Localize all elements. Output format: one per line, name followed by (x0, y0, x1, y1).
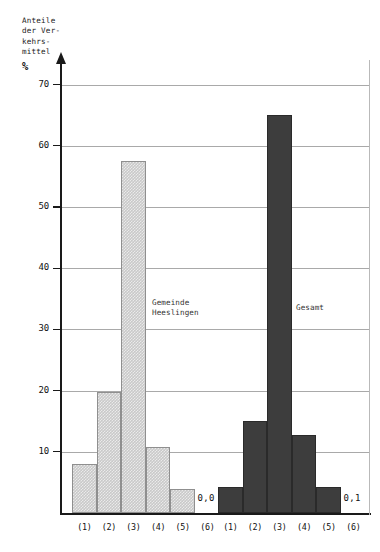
y-tick-10 (53, 451, 62, 452)
gridline-60 (62, 146, 369, 147)
y-tick-label-60: 60 (39, 140, 49, 150)
x-tick-label-group1-4: (4) (146, 522, 171, 532)
x-tick-label-group2-1: (1) (218, 522, 243, 532)
x-tick-label-group1-5: (5) (170, 522, 195, 532)
bar-series2-cat3 (267, 115, 292, 513)
plot-frame-right-edge (369, 60, 370, 515)
y-tick-label-20: 20 (39, 385, 49, 395)
gridline-50 (62, 207, 369, 208)
x-tick-label-group2-2: (2) (243, 522, 268, 532)
bar-series2-cat5 (316, 487, 341, 513)
x-tick-label-group2-3: (3) (267, 522, 292, 532)
y-tick-label-30: 30 (39, 323, 49, 333)
y-tick-30 (53, 329, 62, 330)
x-tick-label-group1-3: (3) (121, 522, 146, 532)
y-tick-label-50: 50 (39, 201, 49, 211)
bar-series1-cat5 (170, 489, 195, 513)
y-axis-unit-label: % (22, 60, 28, 72)
value-annotation-series2-cat6: 0,1 (344, 493, 361, 503)
bar-series2-cat2 (243, 421, 268, 513)
x-tick-label-group1-1: (1) (72, 522, 97, 532)
y-axis-caption: Anteile der Ver- kehrs- mittel (22, 16, 60, 58)
value-annotation-series1-cat6: 0,0 (198, 493, 215, 503)
series-label-gemeinde-heeslingen: Gemeinde Heeslingen (152, 298, 199, 318)
bar-chart: Anteile der Ver- kehrs- mittel % 1020304… (0, 0, 380, 552)
x-tick-label-group2-5: (5) (316, 522, 341, 532)
bar-series1-cat1 (72, 464, 97, 513)
bar-series2-cat4 (292, 435, 317, 513)
y-tick-label-40: 40 (39, 262, 49, 272)
gridline-40 (62, 268, 369, 269)
bar-series1-cat4 (146, 447, 171, 513)
bar-series1-cat3 (121, 161, 146, 513)
y-tick-20 (53, 390, 62, 391)
bar-series1-cat2 (97, 392, 122, 513)
y-axis-line (60, 60, 62, 515)
y-tick-label-70: 70 (39, 79, 49, 89)
y-tick-70 (53, 84, 62, 85)
x-tick-label-group1-6: (6) (195, 522, 220, 532)
x-tick-label-group2-4: (4) (292, 522, 317, 532)
x-tick-label-group2-6: (6) (341, 522, 366, 532)
gridline-70 (62, 85, 369, 86)
y-tick-label-10: 10 (39, 446, 49, 456)
bar-series2-cat1 (218, 487, 243, 513)
y-tick-40 (53, 268, 62, 269)
y-tick-50 (53, 206, 62, 207)
gridline-30 (62, 329, 369, 330)
series-label-gesamt: Gesamt (296, 303, 324, 313)
x-tick-label-group1-2: (2) (97, 522, 122, 532)
y-tick-60 (53, 145, 62, 146)
